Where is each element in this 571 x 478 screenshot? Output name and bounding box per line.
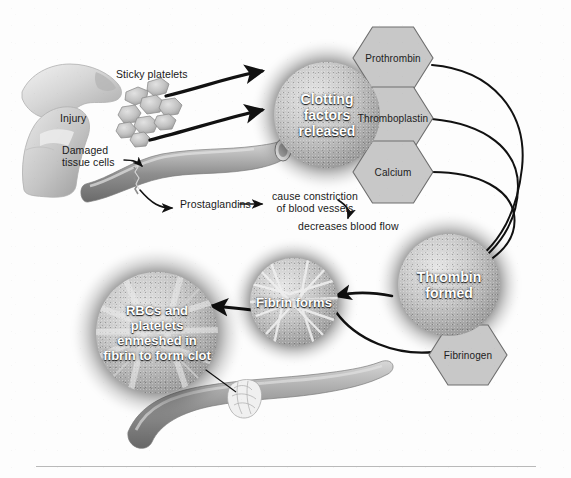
orb-clot-formed-label: RBCs and platelets enmeshed in fibrin to… [96,303,218,363]
orb-fibrin-forms: Fibrin forms [250,258,338,346]
label-damaged-tissue-cells: Damaged tissue cells [62,144,115,168]
hexagon-fibrinogen-label: Fibrinogen [444,350,492,361]
orb-thrombin-formed-label: Thrombin formed [398,269,500,301]
orb-clot-formed: RBCs and platelets enmeshed in fibrin to… [96,272,218,394]
label-injury: Injury [60,112,86,124]
clot-band [228,380,262,419]
orb-clotting-factors-released: Clotting factors released [274,62,380,168]
label-decreases-blood-flow: decreases blood flow [298,220,399,232]
label-prostaglandins: Prostaglandins [180,198,251,210]
orb-thrombin-formed: Thrombin formed [398,234,500,336]
footer-rule [36,466,536,467]
label-sticky-platelets: Sticky platelets [116,68,188,80]
platelet-cluster [116,78,182,147]
orb-clotting-factors-label: Clotting factors released [274,91,380,139]
hexagon-calcium-label: Calcium [375,167,412,178]
hexagon-prothrombin-label: Prothrombin [365,53,421,64]
arrow-vessel-to-prostaglandins [140,190,172,208]
label-cause-constriction: cause constriction of blood vessels [272,190,358,214]
diagram-canvas: Clotting factors released Thrombin forme… [0,0,571,478]
orb-fibrin-forms-label: Fibrin forms [252,295,336,310]
